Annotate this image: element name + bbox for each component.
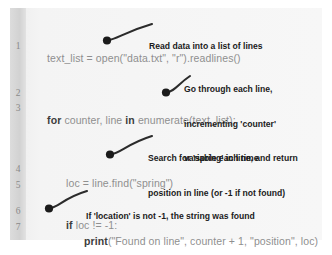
keyword-in: in [125,114,135,126]
leader-line-loop-counter [160,70,192,100]
annotation-location-check: If 'location' is not -1, the string was … [86,188,255,246]
annotation-find-spring-line-1: Search for 'spring' in line, and return [148,153,298,165]
line-number-3: 3 [10,103,26,113]
line-number-7: 7 [10,222,26,232]
keyword-for: for [47,114,61,126]
line-number-6: 6 [10,206,26,216]
code-line-3-mid: counter, line [61,114,125,126]
leader-line-location-check [41,187,89,215]
line-number-2: 2 [10,88,26,98]
line-number-5: 5 [10,180,26,190]
leader-line-read-data [96,16,154,48]
annotation-read-data-line-1: Read data into a list of lines [149,41,263,53]
leader-dot-find-spring [106,150,114,158]
line-number-4: 4 [10,164,26,174]
annotation-loop-counter-line-1: Go through each line, [184,84,276,96]
code-listing-figure: 1 2 3 4 5 6 7 text_list = open("data.txt… [0,0,332,255]
leader-line-find-spring [100,130,154,160]
leader-dot-loop-counter [162,88,170,96]
line-number-1: 1 [10,41,26,51]
annotation-loop-counter-line-2: incrementing 'counter' [184,119,276,131]
leader-dot-read-data [103,36,111,44]
annotation-location-check-line-1: If 'location' is not -1, the string was … [86,211,255,223]
leader-dot-location-check [45,204,53,212]
